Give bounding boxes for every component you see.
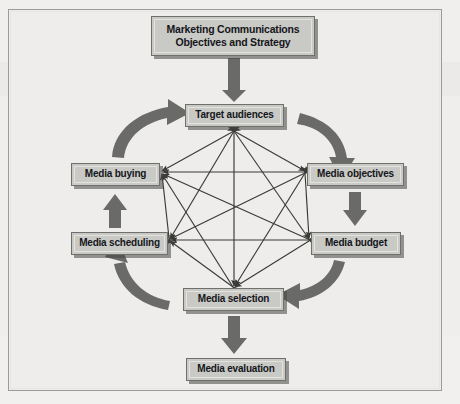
- node-media-budget[interactable]: Media budget: [311, 232, 401, 255]
- node-label-media-evaluation: Media evaluation: [193, 363, 278, 375]
- node-target-audiences[interactable]: Target audiences: [185, 104, 284, 127]
- node-label-media-buying: Media buying: [81, 168, 151, 180]
- node-media-objectives[interactable]: Media objectives: [307, 163, 404, 186]
- node-label-target-audiences: Target audiences: [191, 109, 277, 121]
- node-media-buying[interactable]: Media buying: [71, 163, 160, 186]
- node-label-media-objectives: Media objectives: [313, 168, 398, 180]
- node-label-media-selection: Media selection: [194, 293, 273, 305]
- node-label-media-scheduling: Media scheduling: [75, 237, 164, 249]
- node-media-scheduling[interactable]: Media scheduling: [71, 232, 168, 255]
- diagram-canvas: Marketing CommunicationsObjectives and S…: [0, 0, 460, 404]
- node-media-selection[interactable]: Media selection: [183, 288, 284, 311]
- node-label-title: Marketing CommunicationsObjectives and S…: [163, 23, 304, 49]
- diagram-frame: [8, 9, 442, 391]
- node-media-evaluation[interactable]: Media evaluation: [186, 358, 286, 381]
- node-marketing-objectives[interactable]: Marketing CommunicationsObjectives and S…: [151, 16, 315, 56]
- node-label-media-budget: Media budget: [321, 237, 391, 249]
